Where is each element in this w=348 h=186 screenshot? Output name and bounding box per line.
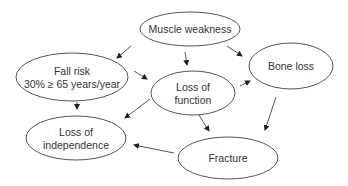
arrow-fall-risk-to-loss-of-function [134,71,147,79]
node-loss-of-independence: Loss ofindependence [26,116,126,160]
arrow-muscle-weakness-to-loss-of-function [185,52,187,65]
node-muscle-weakness: Muscle weakness [140,12,240,46]
nodes-layer: Muscle weaknessFall risk30% ≥ 65 years/y… [16,12,333,179]
node-label: independence [43,139,109,151]
node-label: function [175,94,212,106]
node-fall-risk: Fall risk30% ≥ 65 years/year [16,53,128,101]
node-label: Loss of [59,126,93,138]
node-loss-of-function: Loss offunction [151,71,235,115]
arrow-muscle-weakness-to-bone-loss [227,46,242,56]
arrow-bone-loss-to-fracture [265,97,276,130]
node-label: Bone loss [268,60,314,72]
arrow-loss-of-function-to-bone-loss [240,81,250,86]
arrow-loss-of-function-to-loss-of-independence [125,99,150,118]
node-fracture: Fracture [178,137,278,179]
node-label: Fall risk [54,65,91,77]
node-bone-loss: Bone loss [249,43,333,89]
node-label: Loss of [176,81,210,93]
node-label: Muscle weakness [149,23,232,35]
diagram-canvas: Muscle weaknessFall risk30% ≥ 65 years/y… [0,0,348,186]
node-label: Fracture [208,152,247,164]
node-label: 30% ≥ 65 years/year [24,78,121,90]
arrow-fracture-to-loss-of-independence [134,145,174,153]
arrow-muscle-weakness-to-fall-risk [117,46,131,58]
